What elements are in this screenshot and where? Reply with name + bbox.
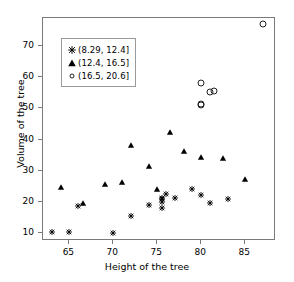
data-point (259, 21, 266, 28)
data-point (198, 102, 205, 109)
y-axis-tick-label: 20 (18, 196, 34, 206)
data-point (198, 79, 205, 86)
data-point (180, 148, 187, 155)
data-point (110, 229, 117, 236)
legend-item-label: (16.5, 20.6] (78, 71, 129, 81)
data-point (101, 181, 108, 188)
legend-item: (12.4, 16.5] (66, 56, 129, 69)
y-axis-tick-label: 60 (18, 71, 34, 81)
data-point (48, 229, 55, 236)
scatter-plot-figure: Volume of the tree Height of the tree 65… (0, 0, 294, 282)
circle-marker-icon (66, 70, 78, 81)
legend-item-label: (12.4, 16.5] (78, 58, 129, 68)
data-point (127, 141, 134, 148)
legend-item-label: (8.29, 12.4] (78, 45, 129, 55)
x-axis-tick (156, 240, 157, 244)
data-point (171, 194, 178, 201)
data-point (198, 192, 205, 199)
y-axis-tick-label: 70 (18, 40, 34, 50)
y-axis-tick-label: 40 (18, 134, 34, 144)
x-axis-tick (200, 240, 201, 244)
data-point (127, 212, 134, 219)
data-point (154, 185, 161, 192)
x-axis-tick-label: 70 (107, 247, 118, 257)
legend: (8.29, 12.4] (12.4, 16.5] (16.5, 20.6] (61, 38, 136, 87)
data-point (211, 87, 218, 94)
x-axis-tick-label: 80 (195, 247, 206, 257)
star-marker-icon (66, 44, 78, 55)
data-point (163, 190, 170, 197)
x-axis-tick-label: 75 (151, 247, 162, 257)
data-point (145, 201, 152, 208)
x-axis-tick (112, 240, 113, 244)
y-axis-tick-label: 30 (18, 165, 34, 175)
data-point (145, 162, 152, 169)
data-point (224, 195, 231, 202)
x-axis-tick (68, 240, 69, 244)
legend-item: (16.5, 20.6] (66, 69, 129, 82)
x-axis-label: Height of the tree (0, 261, 294, 272)
data-point (119, 178, 126, 185)
y-axis-tick-label: 50 (18, 102, 34, 112)
x-axis-tick (244, 240, 245, 244)
data-point (79, 199, 86, 206)
data-point (57, 183, 64, 190)
data-point (207, 199, 214, 206)
x-axis-tick-label: 65 (63, 247, 74, 257)
data-point (66, 229, 73, 236)
legend-item: (8.29, 12.4] (66, 43, 129, 56)
y-axis-tick-label: 10 (18, 227, 34, 237)
data-point (167, 128, 174, 135)
data-point (198, 153, 205, 160)
data-point (220, 155, 227, 162)
x-axis-tick-label: 85 (238, 247, 249, 257)
data-point (242, 175, 249, 182)
data-point (189, 185, 196, 192)
triangle-marker-icon (66, 57, 78, 68)
